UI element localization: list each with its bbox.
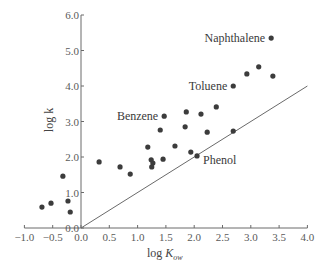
data-point [97,159,102,164]
x-tick-label: 0.5 [102,231,116,243]
point-labels: BenzenePhenolTolueneNaphthalene [117,31,265,167]
data-point [65,198,70,203]
point-label-benzene: Benzene [117,109,158,123]
data-point [183,124,188,129]
x-tick-label: −0.5 [43,231,63,243]
data-point [231,83,236,88]
data-point [205,130,210,135]
y-tick-label: 5.0 [65,45,79,57]
data-point [128,171,133,176]
data-point [231,128,236,133]
reference-line [81,86,307,228]
x-tick-label: −1.0 [14,231,34,243]
data-point [149,164,154,169]
data-point [214,104,219,109]
y-tick-label: 4.0 [65,80,79,92]
point-label-phenol: Phenol [203,153,237,167]
data-point [60,174,65,179]
x-tick-label: 2.5 [216,231,230,243]
y-tick-label: 1.0 [65,187,79,199]
x-tick-label: 1.5 [159,231,173,243]
x-tick-label: 3.0 [244,231,258,243]
data-point [68,209,73,214]
data-point [158,127,163,132]
x-tick-label: 3.5 [272,231,286,243]
data-point [145,144,150,149]
x-axis-title: log Kow [147,246,183,262]
data-point [48,201,53,206]
data-point [160,157,165,162]
y-tick-label: 3.0 [65,116,79,128]
y-tick-label: 6.0 [65,9,79,21]
data-point [117,164,122,169]
y-tick-label: 0.0 [65,222,79,234]
data-point [162,114,167,119]
y-tick-label: 2.0 [65,151,79,163]
x-tick-label: 2.0 [187,231,201,243]
y-equals-x-line [81,86,307,228]
x-tick-label: 4.0 [301,231,315,243]
point-label-naphthalene: Naphthalene [205,31,266,45]
data-point [256,64,261,69]
data-point [270,73,275,78]
x-tick-label: 1.0 [131,231,145,243]
data-point [269,35,274,40]
data-point [184,109,189,114]
y-axis-title: log k [42,108,56,132]
axes: −1.0−0.50.00.51.01.52.02.53.03.54.00.01.… [14,9,314,243]
data-point [194,153,199,158]
data-point [188,149,193,154]
data-point [172,143,177,148]
scatter-chart: −1.0−0.50.00.51.01.52.02.53.03.54.00.01.… [0,0,331,275]
point-label-toluene: Toluene [189,79,227,93]
data-point [244,71,249,76]
data-point [198,111,203,116]
data-point [39,204,44,209]
